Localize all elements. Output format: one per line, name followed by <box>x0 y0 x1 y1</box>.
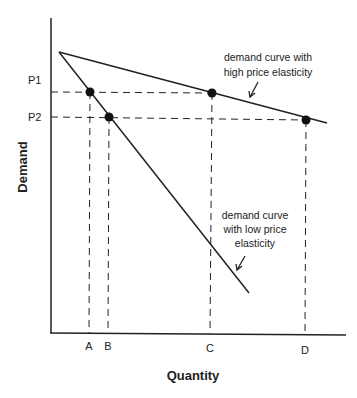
arrow-icon <box>236 256 245 270</box>
tick-d: D <box>301 344 309 356</box>
x-axis-title: Quantity <box>167 368 220 383</box>
point-a-p1 <box>86 88 95 97</box>
elasticity-diagram: P1 P2 A B C D Quantity Demand demand cur… <box>0 0 357 398</box>
tick-c: C <box>206 342 214 354</box>
tick-b: B <box>104 340 111 352</box>
tick-p2: P2 <box>28 111 41 123</box>
x-axis <box>50 333 346 335</box>
low-elasticity-note-line2: with low price <box>222 223 286 235</box>
tick-a: A <box>85 340 93 352</box>
high-elasticity-note-line1: demand curve with <box>224 51 312 63</box>
low-elasticity-note-line1: demand curve <box>222 209 289 221</box>
y-axis-title: Demand <box>15 141 30 192</box>
tick-p1: P1 <box>28 74 41 86</box>
high-elasticity-note-line2: high price elasticity <box>224 66 313 78</box>
point-b-p2 <box>105 113 114 122</box>
arrow-icon <box>249 82 258 97</box>
low-elasticity-note-line3: elasticity <box>235 237 276 249</box>
point-d-p2 <box>302 116 311 125</box>
low-elasticity-curve <box>59 52 249 293</box>
point-c-p1 <box>208 89 217 98</box>
